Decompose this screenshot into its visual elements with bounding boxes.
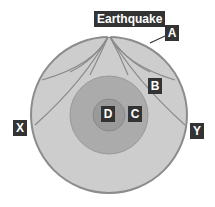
label-B: B — [148, 78, 162, 94]
label-Y: Y — [190, 123, 204, 139]
earth-cross-section — [0, 0, 215, 207]
label-D: D — [101, 106, 115, 122]
label-A: A — [165, 25, 179, 41]
earth-diagram: Earthquake A B C D X Y — [0, 0, 215, 207]
epicenter-point — [107, 33, 111, 37]
pointer-A — [150, 36, 165, 43]
label-C: C — [128, 106, 142, 122]
label-earthquake: Earthquake — [94, 11, 165, 27]
label-X: X — [13, 120, 27, 136]
